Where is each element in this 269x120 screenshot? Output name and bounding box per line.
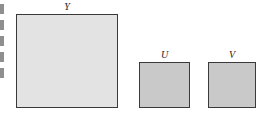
- u-plane-label: U: [139, 50, 190, 60]
- v-plane-label: V: [208, 50, 256, 60]
- cropped-edge-text: [0, 4, 6, 78]
- edge-glyph: [0, 20, 4, 30]
- edge-glyph: [0, 4, 4, 14]
- u-plane: [139, 62, 190, 108]
- edge-glyph: [0, 36, 4, 46]
- y-plane: [16, 14, 118, 108]
- edge-glyph: [0, 68, 4, 78]
- edge-glyph: [0, 52, 4, 62]
- v-plane: [208, 62, 256, 108]
- y-plane-label: Y: [16, 2, 118, 12]
